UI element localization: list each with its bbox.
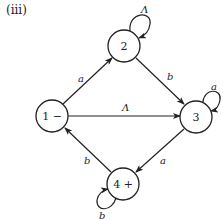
edge-label: Λ: [121, 102, 129, 113]
edge-1-to-3: Λ: [68, 102, 180, 116]
edge-label: b: [84, 155, 90, 166]
state-label: 3: [193, 111, 200, 124]
edge-1-to-2: a: [63, 58, 112, 104]
edge-2-to-3: b: [136, 58, 184, 104]
state-3: 3: [180, 101, 212, 133]
edge-3-to-4: a: [136, 129, 184, 172]
state-label: 1 −: [42, 110, 62, 123]
state-4-final: 4 +: [107, 168, 139, 200]
state-label: 2: [121, 40, 128, 53]
edge-label: a: [78, 73, 84, 84]
edge-label: a: [160, 155, 166, 166]
edge-label: a: [211, 81, 217, 92]
edge-label: Λ: [140, 4, 148, 15]
state-2: 2: [108, 30, 140, 62]
state-label: 4 +: [113, 178, 133, 191]
edge-label: b: [99, 210, 105, 220]
state-1-start: 1 −: [36, 100, 68, 132]
edge-4-to-1: b: [65, 128, 111, 172]
edge-label: b: [167, 71, 173, 82]
transition-graph: a Λ b Λ a a b b 1 − 2: [0, 0, 223, 220]
